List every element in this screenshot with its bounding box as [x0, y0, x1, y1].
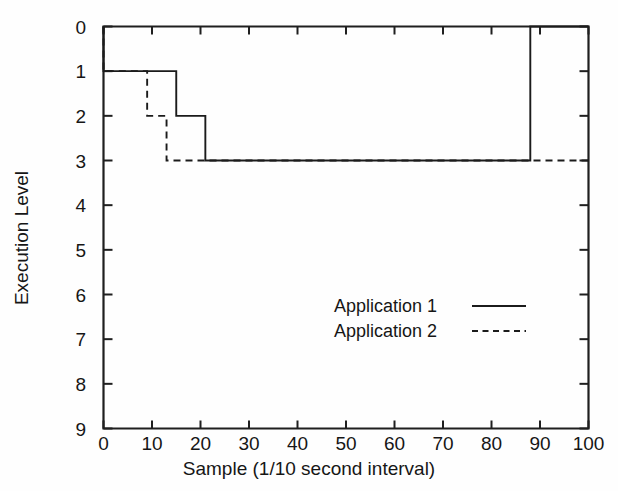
x-tick-label: 80 [481, 434, 502, 453]
y-tick-label: 8 [58, 374, 86, 393]
x-axis-label: Sample (1/10 second interval) [0, 458, 618, 480]
x-tick-label: 30 [238, 434, 259, 453]
x-tick-label: 0 [98, 434, 109, 453]
y-tick-label: 9 [58, 419, 86, 438]
x-tick-label: 60 [384, 434, 405, 453]
x-tick-label: 70 [432, 434, 453, 453]
x-tick-label: 50 [335, 434, 356, 453]
y-tick-label: 2 [58, 106, 86, 125]
x-tick-label: 100 [573, 434, 605, 453]
x-tick-label: 40 [287, 434, 308, 453]
chart-plot-svg [0, 0, 618, 491]
y-tick-label: 7 [58, 330, 86, 349]
y-tick-label: 1 [58, 62, 86, 81]
legend-item-label: Application 1 [334, 297, 437, 315]
series-line-1 [104, 27, 589, 161]
chart-figure: 0123456789 0102030405060708090100 Sample… [0, 0, 618, 491]
y-axis-label: Execution Level [11, 153, 33, 323]
x-tick-label: 20 [190, 434, 211, 453]
y-tick-label: 4 [58, 196, 86, 215]
y-tick-label: 5 [58, 240, 86, 259]
y-tick-label: 3 [58, 151, 86, 170]
legend-item-label: Application 2 [334, 322, 437, 340]
x-tick-label: 90 [529, 434, 550, 453]
legend-line-samples [472, 306, 526, 331]
y-tick-label: 6 [58, 285, 86, 304]
x-tick-label: 10 [141, 434, 162, 453]
y-tick-label: 0 [58, 17, 86, 36]
data-series-group [104, 27, 589, 161]
